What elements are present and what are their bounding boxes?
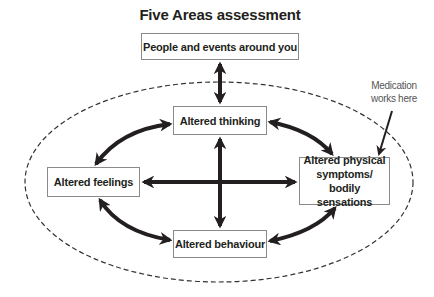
box-label-line3: sensations [317, 195, 372, 209]
arrow-thinking-feelings [96, 124, 170, 164]
box-altered-behaviour: Altered behaviour [173, 230, 267, 258]
annotation-line2: works here [364, 92, 424, 105]
box-label: Altered thinking [180, 114, 261, 128]
box-label-line2: symptoms/ bodily [300, 167, 389, 195]
arrow-thinking-physical [270, 122, 332, 154]
diagram-title: Five Areas assessment [0, 6, 434, 23]
annotation-line1: Medication [364, 79, 424, 92]
arrow-medication [379, 111, 392, 154]
box-people-and-events: People and events around you [141, 33, 299, 60]
medication-annotation: Medication works here [364, 79, 424, 105]
box-label: Altered feelings [54, 175, 133, 189]
box-altered-thinking: Altered thinking [173, 106, 267, 135]
box-altered-physical: Altered physical symptoms/ bodily sensat… [299, 157, 390, 205]
box-label: People and events around you [143, 40, 297, 54]
arrow-behaviour-physical [270, 208, 335, 241]
box-label-line1: Altered physical [304, 153, 386, 167]
box-altered-feelings: Altered feelings [47, 167, 140, 197]
arrow-feelings-behaviour [100, 200, 170, 240]
box-label: Altered behaviour [175, 237, 265, 251]
